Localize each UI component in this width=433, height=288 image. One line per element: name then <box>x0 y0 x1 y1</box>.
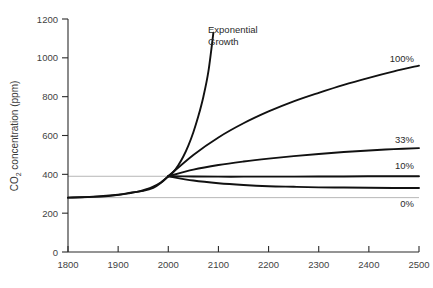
y-axis-title-prefix: CO <box>9 176 20 191</box>
y-tick-group: 020040060080010001200 <box>37 14 68 258</box>
y-tick-label: 600 <box>42 130 58 141</box>
series-label-100: 100% <box>390 53 415 64</box>
x-tick-label: 2100 <box>208 259 229 270</box>
exponential-growth-annotation: Exponential Growth <box>208 24 258 47</box>
series-curve-pct-0 <box>168 176 419 188</box>
y-axis: 020040060080010001200 <box>37 14 68 258</box>
x-tick-label: 2300 <box>308 259 329 270</box>
annotation-line-1: Exponential <box>208 24 258 35</box>
series-curve-exponential <box>68 33 213 198</box>
x-tick-label: 2500 <box>408 259 429 270</box>
x-tick-label: 2200 <box>258 259 279 270</box>
y-tick-label: 1200 <box>37 14 58 25</box>
series-label-33: 33% <box>395 134 415 145</box>
x-tick-label: 1900 <box>108 259 129 270</box>
y-axis-title-text: CO2 concentration (ppm) <box>9 81 22 192</box>
y-axis-title-suffix: concentration (ppm) <box>9 81 20 173</box>
y-tick-label: 1000 <box>37 52 58 63</box>
x-tick-group: 18001900200021002200230024002500 <box>57 246 429 270</box>
co2-concentration-chart: 020040060080010001200 180019002000210022… <box>0 0 433 288</box>
x-tick-label: 2400 <box>358 259 379 270</box>
series-label-0: 0% <box>400 198 414 209</box>
x-tick-label: 1800 <box>57 259 78 270</box>
y-tick-label: 0 <box>53 247 58 258</box>
data-series-group <box>68 33 419 198</box>
series-curve-historical <box>68 176 168 197</box>
y-tick-label: 800 <box>42 91 58 102</box>
annotation-line-2: Growth <box>208 36 239 47</box>
y-axis-title: CO2 concentration (ppm) <box>9 81 22 192</box>
x-axis: 18001900200021002200230024002500 <box>57 246 429 270</box>
y-tick-label: 400 <box>42 169 58 180</box>
series-label-10: 10% <box>395 160 415 171</box>
chart-canvas: 020040060080010001200 180019002000210022… <box>0 0 433 288</box>
x-tick-label: 2000 <box>158 259 179 270</box>
y-tick-label: 200 <box>42 208 58 219</box>
series-inline-labels: 100% 33% 10% 0% <box>390 53 415 209</box>
series-curve-pct-33 <box>168 148 419 176</box>
